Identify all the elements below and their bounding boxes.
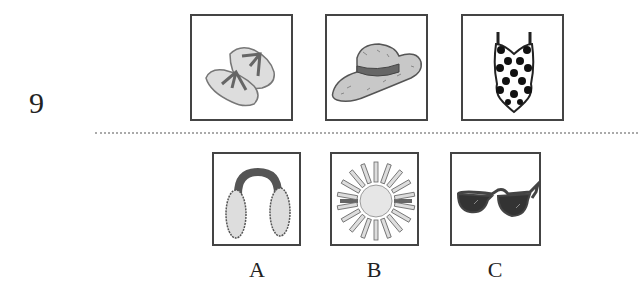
sun-icon [332,154,421,248]
earmuffs-icon [214,154,303,248]
prompt-item-swimsuit [461,14,564,121]
question-number: 9 [29,86,44,120]
option-b-box[interactable] [330,152,419,246]
prompt-item-sun-hat [325,14,428,121]
option-a-label: A [237,257,277,283]
sun-hat-icon [327,16,430,123]
prompt-item-flip-flops [190,14,293,121]
option-a-box[interactable] [212,152,301,246]
option-c-box[interactable] [450,152,541,246]
section-divider [95,132,638,134]
option-c-label: C [475,257,515,283]
option-b-label: B [354,257,394,283]
sunglasses-icon [452,154,543,248]
swimsuit-icon [463,16,566,123]
flip-flops-icon [192,16,295,123]
